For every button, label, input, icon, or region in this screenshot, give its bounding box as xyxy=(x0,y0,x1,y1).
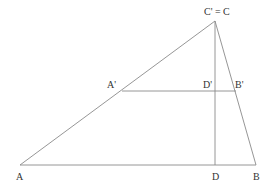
label-a: A xyxy=(16,171,24,182)
triangle-diagram: C' = C A' D' B' A D B xyxy=(0,0,275,188)
side-bc xyxy=(215,21,256,165)
label-d-prime: D' xyxy=(203,79,212,90)
side-ac xyxy=(20,21,215,165)
label-d: D xyxy=(212,171,219,182)
label-c: C' = C xyxy=(204,6,230,17)
label-a-prime: A' xyxy=(107,79,116,90)
label-b: B xyxy=(253,171,260,182)
label-b-prime: B' xyxy=(235,79,244,90)
